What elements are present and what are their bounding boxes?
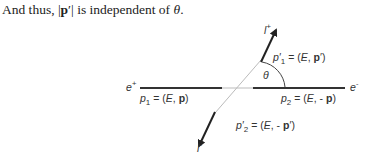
p1-label: p1 = (E, p): [139, 92, 189, 107]
e-minus-label: e-: [350, 79, 359, 93]
p2-label: p2 = (E, - p): [280, 92, 336, 107]
l-light-line: [215, 60, 261, 113]
scattering-diagram: θ e+ e- l+ l- p1 = (E, p) p2 = (E, - p) …: [0, 0, 376, 156]
e-plus-label: e+: [126, 79, 137, 93]
theta-label: θ: [263, 69, 269, 81]
p2-prime-label: p′2 = (E, - p′): [235, 119, 295, 134]
l-minus-label: l-: [197, 140, 202, 154]
p1-prime-label: p′1 = (E, p′): [272, 51, 325, 66]
l-plus-label: l+: [264, 22, 271, 36]
